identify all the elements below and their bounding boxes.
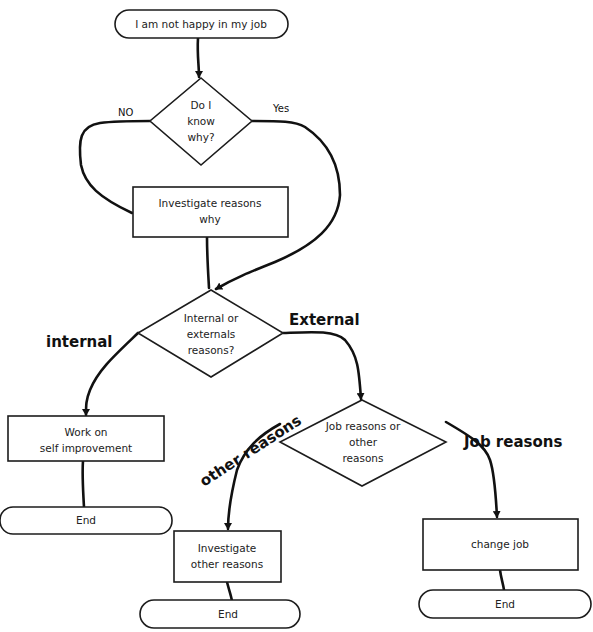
decision-know-why-line1: Do I xyxy=(191,99,212,111)
edge-investigate-other-to-end xyxy=(227,582,232,601)
process-self-improvement-line1: Work on xyxy=(64,426,107,438)
edge-label-external: External xyxy=(289,311,360,329)
edge-label-yes: Yes xyxy=(272,103,289,114)
end-other: End xyxy=(140,600,300,628)
edge-investigate-to-int-ext xyxy=(207,237,209,288)
edge-label-no: NO xyxy=(118,107,133,118)
process-change-job-label: change job xyxy=(471,538,529,550)
start-node: I am not happy in my job xyxy=(115,10,288,38)
decision-know-why-line2: know xyxy=(187,115,215,127)
decision-internal-external-line1: Internal or xyxy=(184,312,239,324)
edge-external-to-job-or-other xyxy=(283,332,361,399)
end-internal-label: End xyxy=(76,514,96,526)
edge-self-improve-to-end xyxy=(83,461,84,507)
process-change-job: change job xyxy=(423,519,578,570)
decision-job-or-other-line1: Job reasons or xyxy=(325,420,401,432)
flowchart-canvas: I am not happy in my job Do I know why? … xyxy=(0,0,593,632)
end-other-label: End xyxy=(218,608,238,620)
edge-label-internal: internal xyxy=(46,333,113,351)
process-self-improvement: Work on self improvement xyxy=(8,416,164,461)
decision-internal-external: Internal or externals reasons? xyxy=(138,290,283,377)
end-internal: End xyxy=(0,507,172,534)
decision-know-why-line3: why? xyxy=(187,131,214,143)
start-node-label: I am not happy in my job xyxy=(135,18,267,30)
edge-change-job-to-end xyxy=(500,570,504,590)
decision-know-why: Do I know why? xyxy=(150,78,252,165)
decision-internal-external-line2: externals xyxy=(187,328,236,340)
decision-job-or-other: Job reasons or other reasons xyxy=(280,400,446,486)
decision-job-or-other-line3: reasons xyxy=(342,452,383,464)
edge-label-job-reasons: Job reasons xyxy=(463,433,562,451)
edge-start-to-know-why xyxy=(198,38,199,77)
end-job: End xyxy=(419,590,591,618)
process-investigate-why-line2: why xyxy=(199,213,220,225)
end-job-label: End xyxy=(495,598,515,610)
process-self-improvement-line2: self improvement xyxy=(40,442,132,454)
process-investigate-other-line1: Investigate xyxy=(198,542,257,554)
process-investigate-why: Investigate reasons why xyxy=(133,187,288,237)
process-investigate-other-line2: other reasons xyxy=(191,558,263,570)
decision-internal-external-line3: reasons? xyxy=(188,344,235,356)
process-investigate-why-line1: Investigate reasons xyxy=(159,197,262,209)
process-investigate-other: Investigate other reasons xyxy=(174,531,281,582)
edge-label-other-reasons: other reasons xyxy=(196,411,304,490)
decision-job-or-other-line2: other xyxy=(349,436,378,448)
